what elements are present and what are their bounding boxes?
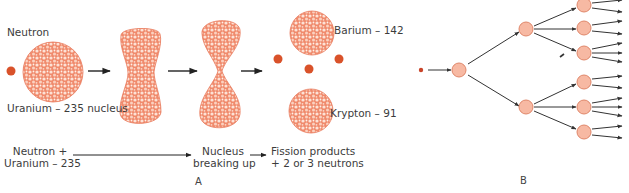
neutron-particle <box>7 67 16 76</box>
released-neutron-1 <box>274 55 283 64</box>
process-step-2-line-2: breaking up <box>193 157 253 169</box>
krypton-nucleus <box>289 89 333 133</box>
chain-node-g2-bottom <box>519 100 533 114</box>
chain-node-g2-top <box>519 22 533 36</box>
chain-node-g3 <box>577 21 591 35</box>
uranium-nucleus-label: Uranium – 235 nucleus <box>7 102 128 114</box>
chain-node-g3 <box>577 0 591 12</box>
panel-b-letter: B <box>520 175 527 186</box>
panel-b <box>419 0 622 139</box>
process-step-2: Nucleus breaking up <box>193 145 253 169</box>
chain-node-g1 <box>452 63 466 77</box>
process-step-3-line-2: + 2 or 3 neutrons <box>271 157 364 169</box>
start-neutron <box>419 68 423 72</box>
chain-node-g3 <box>577 46 591 60</box>
chain-node-g3 <box>577 125 591 139</box>
uranium-nucleus <box>23 42 83 102</box>
neutron-label: Neutron <box>7 26 49 38</box>
process-step-3: Fission products + 2 or 3 neutrons <box>271 145 364 169</box>
process-step-1-line-2: Uranium – 235 <box>4 157 76 169</box>
splitting-nucleus <box>200 21 240 128</box>
panel-a-letter: A <box>195 176 202 187</box>
barium-nucleus <box>290 11 334 55</box>
krypton-label: Krypton – 91 <box>330 107 397 119</box>
process-step-1-line-1: Neutron + <box>4 145 76 157</box>
chain-node-g3 <box>577 100 591 114</box>
process-step-2-line-1: Nucleus <box>193 145 253 157</box>
released-neutron-3 <box>335 55 344 64</box>
chain-node-g3 <box>577 75 591 89</box>
process-step-1: Neutron + Uranium – 235 <box>4 145 76 169</box>
process-step-3-line-1: Fission products <box>271 145 364 157</box>
panel-a <box>7 11 344 155</box>
released-neutron-2 <box>305 65 314 74</box>
barium-label: Barium – 142 <box>334 24 404 36</box>
